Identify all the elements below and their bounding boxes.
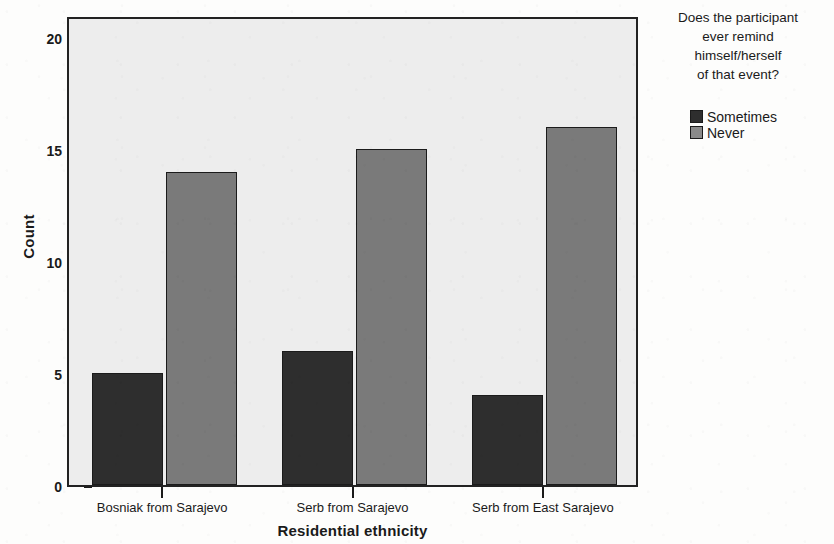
legend-entry-label: Sometimes	[707, 110, 777, 124]
bar	[546, 127, 617, 485]
clustered-bar-chart: Count 05101520 Bosniak from SarajevoSerb…	[0, 0, 834, 544]
x-axis-tick-mark	[161, 487, 163, 498]
y-axis-tick-label: 0	[28, 480, 62, 494]
y-axis-tick-label: 10	[28, 256, 62, 270]
y-axis-tick-label: 20	[28, 32, 62, 46]
x-axis-tick-label: Serb from East Sarajevo	[472, 500, 614, 515]
y-axis-tick-label: 5	[28, 368, 62, 382]
x-axis-title: Residential ethnicity	[67, 522, 638, 539]
bars-container	[69, 19, 636, 485]
x-axis-tick-mark	[542, 487, 544, 498]
x-axis-tick-label: Bosniak from Sarajevo	[97, 500, 228, 515]
legend: Does the participant ever remind himself…	[648, 8, 828, 142]
plot-area	[67, 17, 638, 487]
legend-title: Does the participant ever remind himself…	[648, 8, 828, 85]
bar	[472, 395, 543, 485]
y-axis-tick-label: 15	[28, 144, 62, 158]
y-axis-tick-labels: 05101520	[24, 0, 62, 544]
legend-entry-label: Never	[707, 126, 744, 140]
bar	[282, 351, 353, 485]
legend-entries: SometimesNever	[648, 110, 828, 140]
legend-swatch	[690, 110, 703, 123]
bar	[92, 373, 163, 485]
bar	[166, 172, 237, 485]
legend-entry: Sometimes	[690, 110, 828, 124]
bar	[356, 149, 427, 485]
legend-entry: Never	[690, 126, 828, 140]
x-axis-tick-mark	[352, 487, 354, 498]
legend-swatch	[690, 126, 703, 139]
x-axis-tick-label: Serb from Sarajevo	[297, 500, 409, 515]
